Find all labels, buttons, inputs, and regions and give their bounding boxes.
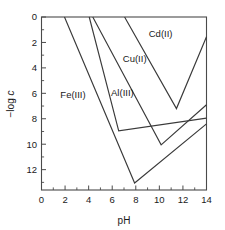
x-tick-label: 10 xyxy=(154,194,165,205)
x-tick-label: 4 xyxy=(86,194,91,205)
series-label-feiii: Fe(III) xyxy=(60,89,85,100)
series-label-aliii: Al(III) xyxy=(111,87,134,98)
series-curves xyxy=(64,17,206,183)
series-labels: Fe(III)Al(III)Cu(II)Cd(II) xyxy=(60,28,172,100)
x-tick-label: 0 xyxy=(39,194,44,205)
y-tick-label: 10 xyxy=(26,139,37,150)
y-tick-label: 2 xyxy=(32,37,37,48)
x-axis-title: pH xyxy=(118,215,131,226)
y-axis-ticks xyxy=(42,17,47,182)
series-label-cuii: Cu(II) xyxy=(123,53,147,64)
series-label-cdii: Cd(II) xyxy=(149,28,173,39)
y-tick-label: 0 xyxy=(32,11,37,22)
x-tick-label: 14 xyxy=(201,194,212,205)
x-tick-label: 6 xyxy=(110,194,115,205)
x-axis-ticks xyxy=(42,186,207,191)
chart-canvas: 02468101214 024681012 Fe(III)Al(III)Cu(I… xyxy=(0,0,225,230)
y-tick-label: 6 xyxy=(32,88,37,99)
y-axis-title: −log c xyxy=(5,91,16,118)
x-tick-label: 2 xyxy=(62,194,67,205)
y-axis-title-prefix: −log xyxy=(5,96,16,118)
x-tick-label: 8 xyxy=(133,194,138,205)
solubility-diagram-figure: 02468101214 024681012 Fe(III)Al(III)Cu(I… xyxy=(0,0,225,230)
y-tick-label: 8 xyxy=(32,113,37,124)
x-axis-tick-labels: 02468101214 xyxy=(39,194,212,205)
y-axis-tick-labels: 024681012 xyxy=(26,11,37,175)
y-axis-title-variable: c xyxy=(5,91,16,96)
y-tick-label: 4 xyxy=(32,62,37,73)
x-tick-label: 12 xyxy=(178,194,189,205)
y-tick-label: 12 xyxy=(26,164,37,175)
curve-feiii xyxy=(64,17,206,183)
svg-text:−log c: −log c xyxy=(5,91,16,118)
plot-frame xyxy=(42,17,207,190)
